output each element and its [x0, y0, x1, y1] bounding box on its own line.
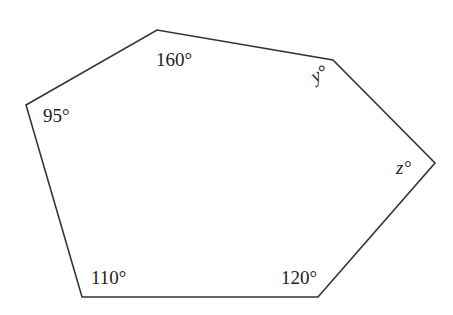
hexagon-diagram: 160° 95° y° z° 110° 120°	[0, 0, 453, 315]
angle-label-95: 95°	[43, 106, 70, 125]
angle-label-110: 110°	[91, 268, 126, 287]
hexagon-shape	[0, 0, 453, 315]
angle-label-160: 160°	[156, 50, 192, 69]
angle-label-120: 120°	[281, 268, 317, 287]
angle-label-z: z°	[396, 158, 411, 177]
